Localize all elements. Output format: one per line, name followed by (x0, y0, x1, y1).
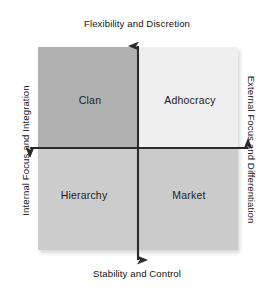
quadrant-adhocracy: Adhocracy (138, 47, 238, 148)
quadrant-hierarchy: Hierarchy (38, 148, 138, 250)
quadrant-label-market: Market (172, 189, 205, 201)
axis-label-left: Internal Focus and Integration (20, 61, 31, 241)
quadrant-label-adhocracy: Adhocracy (164, 94, 215, 106)
quadrant-label-hierarchy: Hierarchy (61, 189, 108, 201)
quadrant-matrix: Clan Adhocracy Hierarchy Market (38, 47, 238, 250)
quadrant-label-clan: Clan (79, 94, 101, 106)
axis-label-right: External Focus and Differentiation (246, 60, 257, 240)
competing-values-framework-diagram: Clan Adhocracy Hierarchy Market Flexibil… (0, 0, 274, 290)
axis-label-top: Flexibility and Discretion (0, 18, 274, 29)
axis-label-bottom: Stability and Control (0, 268, 274, 279)
quadrant-clan: Clan (38, 47, 138, 148)
quadrant-market: Market (138, 148, 238, 250)
